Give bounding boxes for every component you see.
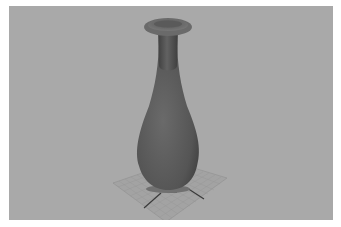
scene: [9, 6, 333, 220]
vase-model[interactable]: [137, 18, 199, 193]
3d-viewport[interactable]: [9, 6, 333, 220]
